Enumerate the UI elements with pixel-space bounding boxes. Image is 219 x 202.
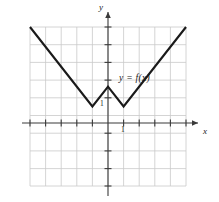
x-tick-label-1: 1 xyxy=(121,126,125,134)
y-tick-label-1: 1 xyxy=(100,100,104,108)
graph-canvas xyxy=(0,0,219,202)
function-equation-label: y = f(x) xyxy=(119,73,150,83)
x-axis-arrowhead xyxy=(192,120,198,126)
y-axis-arrowhead xyxy=(105,12,111,18)
function-graph-figure: y x y = f(x) 1 1 xyxy=(0,0,219,202)
x-axis-label: x xyxy=(203,127,207,136)
y-axis-label: y xyxy=(99,3,103,12)
